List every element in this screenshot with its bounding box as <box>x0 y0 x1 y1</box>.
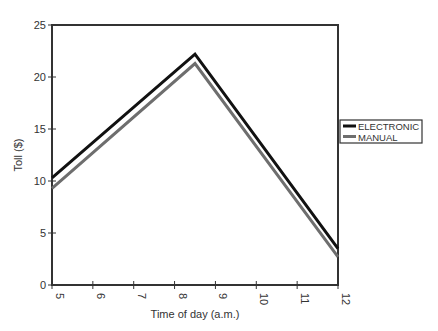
y-tick-label: 5 <box>40 227 46 239</box>
x-tick-label: 5 <box>54 293 66 299</box>
series-line-manual <box>52 64 338 257</box>
y-tick-label: 10 <box>34 175 46 187</box>
x-tick-label: 7 <box>136 293 148 299</box>
chart-canvas: 0510152025 56789101112 Toll ($) Time of … <box>0 0 438 331</box>
x-tick-label: 8 <box>177 293 189 299</box>
y-tick-label: 20 <box>34 71 46 83</box>
legend-label-manual: MANUAL <box>358 132 398 143</box>
x-tick-label: 12 <box>340 293 352 305</box>
y-tick-label: 25 <box>34 19 46 31</box>
line-chart: 0510152025 56789101112 Toll ($) Time of … <box>0 0 438 331</box>
legend-label-electronic: ELECTRONIC <box>358 121 419 132</box>
legend: ELECTRONIC MANUAL <box>340 120 422 143</box>
x-tick-label: 10 <box>258 293 270 305</box>
x-axis-title: Time of day (a.m.) <box>151 308 240 320</box>
y-tick-label: 0 <box>40 279 46 291</box>
x-tick-label: 6 <box>95 293 107 299</box>
y-axis-title: Toll ($) <box>12 138 24 171</box>
x-tick-label: 9 <box>217 293 229 299</box>
x-tick-label: 11 <box>299 293 311 304</box>
y-tick-label: 15 <box>34 123 46 135</box>
series-layer <box>52 54 338 257</box>
